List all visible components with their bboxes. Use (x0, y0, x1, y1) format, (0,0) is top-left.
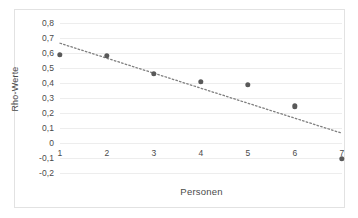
x-tick-label: 3 (144, 148, 164, 158)
x-tick-label: 5 (238, 148, 258, 158)
x-axis-title: Personen (60, 186, 343, 197)
y-tick-label: 0,5 (28, 63, 54, 73)
scatter-plot: 0,80,70,60,50,40,30,20,10-0,1-0,2 123456… (0, 0, 358, 218)
y-axis-title: Rho-Werte (10, 58, 20, 120)
x-tick-label: 2 (97, 148, 117, 158)
x-tick-label: 4 (191, 148, 211, 158)
y-tick-label: 0,8 (28, 18, 54, 28)
x-tick-label: 1 (50, 148, 70, 158)
y-tick-label: -0,2 (28, 168, 54, 178)
y-tick-label: 0 (28, 138, 54, 148)
y-tick-label: 0,1 (28, 123, 54, 133)
y-tick-label: 0,3 (28, 93, 54, 103)
x-tick-label: 7 (332, 148, 352, 158)
y-tick-label: 0,2 (28, 108, 54, 118)
x-tick-label: 6 (285, 148, 305, 158)
y-tick-label: 0,6 (28, 48, 54, 58)
y-tick-label: 0,7 (28, 33, 54, 43)
trendline-segment (60, 43, 342, 133)
y-tick-label: 0,4 (28, 78, 54, 88)
